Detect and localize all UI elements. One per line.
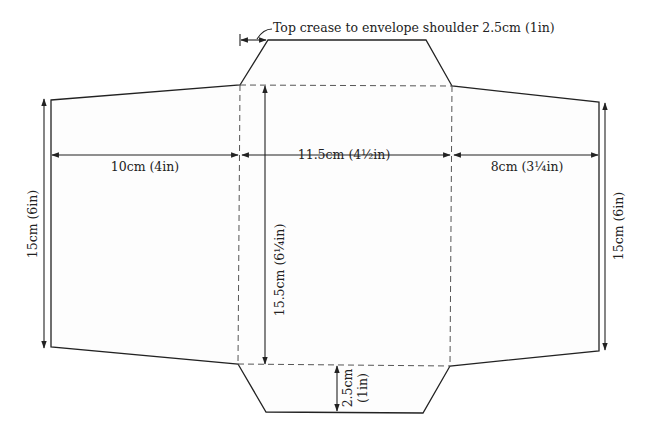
right-width-label: 8cm (3¼in) — [491, 159, 564, 174]
envelope-template-diagram: Top crease to envelope shoulder 2.5cm (1… — [0, 0, 645, 432]
envelope-outline — [51, 40, 599, 413]
left-height-dimension: 15cm (6in) — [25, 99, 44, 348]
top-crease-label: Top crease to envelope shoulder 2.5cm (1… — [273, 20, 555, 35]
center-height-label: 15.5cm (6¼in) — [272, 224, 287, 317]
bottom-flap-label-cm: 2.5cm — [340, 368, 355, 407]
left-width-label: 10cm (4in) — [111, 159, 180, 174]
center-width-label: 11.5cm (4½in) — [298, 147, 391, 162]
left-height-label: 15cm (6in) — [25, 190, 40, 259]
right-height-label: 15cm (6in) — [611, 192, 626, 261]
right-height-dimension: 15cm (6in) — [605, 103, 626, 350]
bottom-flap-label-in: (1in) — [355, 373, 370, 403]
